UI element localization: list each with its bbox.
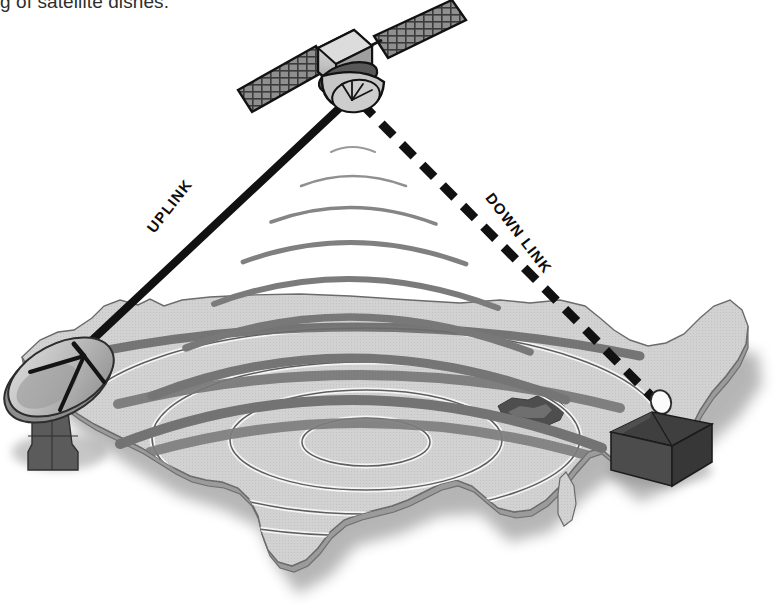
beam-arc-3 [271, 207, 436, 224]
satellite-communication-illustration [0, 0, 779, 611]
solar-panel-left [238, 46, 330, 112]
communications-satellite [238, 0, 466, 116]
caption-strip: g of satellite dishes. [0, 0, 779, 14]
beam-arc-4 [243, 242, 466, 264]
caption-text: g of satellite dishes. [0, 0, 169, 13]
beam-arc-1 [331, 147, 375, 152]
beam-arc-2 [301, 176, 406, 186]
diagram-canvas: g of satellite dishes. [0, 0, 779, 611]
